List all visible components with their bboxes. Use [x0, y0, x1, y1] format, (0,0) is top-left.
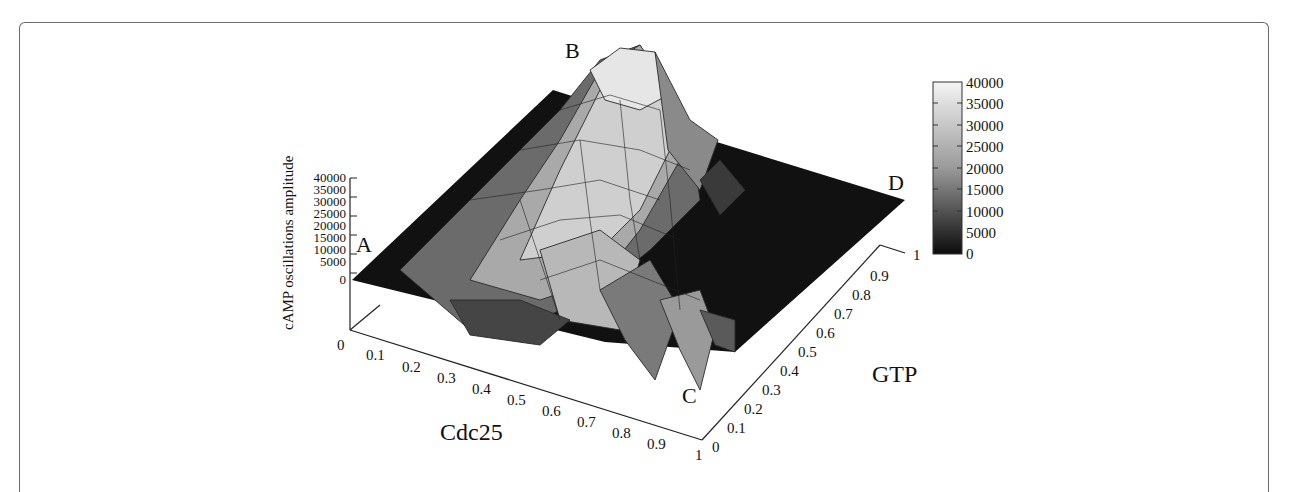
svg-text:0.6: 0.6 — [542, 403, 561, 419]
svg-text:0: 0 — [712, 439, 720, 455]
svg-text:0.2: 0.2 — [744, 401, 763, 417]
z-tick-labels: 40000 35000 30000 25000 20000 15000 1000… — [314, 170, 347, 287]
svg-text:0.9: 0.9 — [870, 268, 889, 284]
svg-text:1: 1 — [913, 247, 921, 263]
svg-text:0.2: 0.2 — [402, 359, 421, 375]
svg-text:0.8: 0.8 — [612, 425, 631, 441]
svg-text:40000: 40000 — [966, 75, 1004, 91]
svg-text:0.1: 0.1 — [366, 347, 385, 363]
svg-text:0.4: 0.4 — [780, 363, 799, 379]
svg-text:0.7: 0.7 — [577, 414, 596, 430]
svg-text:0: 0 — [340, 272, 347, 287]
z-axis-ticks — [350, 178, 357, 273]
svg-text:5000: 5000 — [966, 225, 996, 241]
svg-text:20000: 20000 — [966, 161, 1004, 177]
x-axis-label: Cdc25 — [440, 419, 503, 445]
svg-text:0.5: 0.5 — [507, 392, 526, 408]
colorbar-tick-labels: 40000 35000 30000 25000 20000 15000 1000… — [966, 75, 1004, 262]
corner-label-c: C — [682, 383, 697, 408]
svg-text:1: 1 — [695, 447, 703, 463]
corner-label-a: A — [356, 232, 372, 257]
svg-text:0.3: 0.3 — [437, 370, 456, 386]
svg-text:0.3: 0.3 — [762, 382, 781, 398]
corner-label-b: B — [565, 38, 580, 63]
svg-text:35000: 35000 — [966, 96, 1004, 112]
svg-text:30000: 30000 — [966, 118, 1004, 134]
z-axis-label: cAMP oscillations amplitude — [280, 155, 296, 330]
svg-text:0: 0 — [337, 337, 345, 353]
svg-text:10000: 10000 — [966, 204, 1004, 220]
svg-text:0.8: 0.8 — [852, 287, 871, 303]
svg-text:0.7: 0.7 — [834, 306, 853, 322]
svg-text:15000: 15000 — [966, 182, 1004, 198]
svg-text:0.6: 0.6 — [816, 325, 835, 341]
corner-label-d: D — [888, 170, 904, 195]
svg-text:0.5: 0.5 — [798, 344, 817, 360]
svg-text:0: 0 — [966, 246, 974, 262]
svg-text:0.9: 0.9 — [647, 436, 666, 452]
svg-text:0.1: 0.1 — [727, 420, 746, 436]
svg-text:0.4: 0.4 — [472, 381, 491, 397]
svg-text:25000: 25000 — [966, 139, 1004, 155]
y-axis-label: GTP — [872, 361, 917, 387]
svg-text:5000: 5000 — [320, 254, 346, 269]
